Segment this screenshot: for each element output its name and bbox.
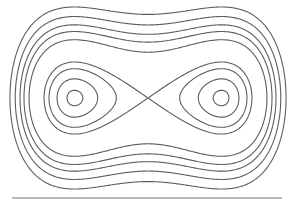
contour-diagram [0,0,289,199]
contour-lines [10,7,286,189]
separatrix-contour [44,62,252,134]
